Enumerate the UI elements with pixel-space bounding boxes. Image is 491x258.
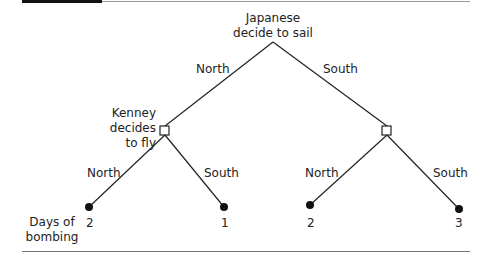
decision-node-right — [382, 126, 391, 135]
payoff-4: 3 — [455, 216, 463, 231]
payoff-2: 1 — [221, 216, 229, 231]
root-label-line2: decide to sail — [223, 26, 323, 41]
branch-label-right-north: North — [305, 166, 339, 181]
payoff-3: 2 — [307, 216, 315, 231]
kenney-label: Kenney decides to fly — [100, 106, 156, 151]
footer-rule — [22, 251, 470, 252]
leaf-node-4 — [455, 205, 463, 213]
branch-label-right-south: South — [433, 166, 468, 181]
decision-node-left — [160, 126, 169, 135]
leaf-node-1 — [85, 203, 93, 211]
root-label-line1: Japanese — [223, 11, 323, 26]
payoff-label-line1: Days of — [22, 215, 82, 230]
payoff-1: 2 — [86, 216, 94, 231]
branch-label-left-north: North — [87, 166, 121, 181]
payoff-label-line2: bombing — [22, 230, 82, 245]
root-label: Japanese decide to sail — [223, 11, 323, 41]
kenney-label-line2: decides — [100, 121, 156, 136]
kenney-label-line1: Kenney — [100, 106, 156, 121]
leaf-node-2 — [220, 203, 228, 211]
payoff-label: Days of bombing — [22, 215, 82, 245]
kenney-label-line3: to fly — [100, 136, 156, 151]
leaf-node-3 — [306, 201, 314, 209]
branch-label-south: South — [323, 62, 358, 77]
branch-label-left-south: South — [204, 166, 239, 181]
branch-label-north: North — [196, 62, 230, 77]
